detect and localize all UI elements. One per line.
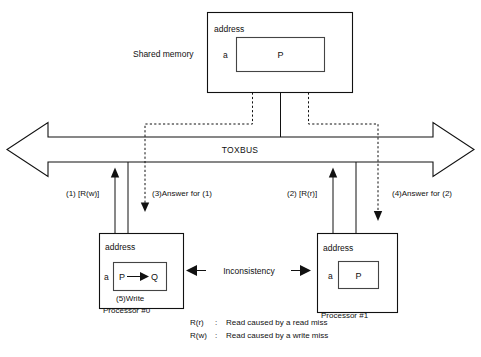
- shared-memory-side-label: Shared memory: [133, 49, 194, 59]
- processor1-block-value: P: [355, 271, 361, 281]
- request2-arrowhead: [329, 168, 337, 178]
- toxbus-group: TOXBUS: [7, 123, 474, 177]
- processor1-group: address a P Processor #1: [318, 234, 398, 321]
- processor0-name-label: Processor #0: [103, 306, 151, 315]
- processor0-tag-label: a: [104, 272, 109, 282]
- inconsistency-label: Inconsistency: [223, 266, 275, 276]
- processor0-write-label: (5)Write: [116, 294, 145, 303]
- processor1-tag-label: a: [328, 271, 333, 281]
- inconsistency-right-arrow-icon: [291, 265, 311, 276]
- legend-group: R(r) : Read caused by a read miss R(w) :…: [190, 318, 328, 340]
- legend-term-1: R(w): [190, 331, 207, 340]
- shared-memory-tag-label: a: [223, 50, 228, 60]
- request1-arrowhead: [111, 168, 119, 178]
- cache-coherence-diagram: address a P Shared memory TOXBUS (1): [0, 0, 481, 357]
- shared-memory-block-value: P: [277, 50, 283, 60]
- shared-memory-address-label: address: [214, 24, 244, 34]
- answer1-arrowhead: [141, 203, 149, 213]
- legend-definition-1: Read caused by a write miss: [226, 331, 328, 340]
- answer2-arrowhead: [374, 211, 382, 221]
- processor1-address-label: address: [323, 243, 353, 253]
- processor0-block-from: P: [119, 272, 125, 282]
- legend-separator-0: :: [215, 318, 217, 327]
- processor0-group: address a P Q (5)Write Processor #0: [100, 234, 184, 316]
- legend-term-0: R(r): [190, 318, 204, 327]
- transaction-1-label: (1) [R(w)]: [66, 189, 99, 198]
- diagram-canvas: address a P Shared memory TOXBUS (1): [0, 0, 481, 357]
- inconsistency-left-arrow-icon: [186, 265, 206, 276]
- transaction-4-label: (4)Answer for (2): [392, 189, 452, 198]
- processor0-bus-lines: [111, 162, 128, 233]
- legend-separator-1: :: [215, 331, 217, 340]
- memory-answer2-dashed-path: [309, 93, 379, 213]
- inconsistency-group: Inconsistency: [186, 265, 311, 276]
- toxbus-label: TOXBUS: [222, 145, 259, 155]
- processor0-block-to: Q: [151, 272, 158, 282]
- write-transition-arrow-icon: [127, 272, 149, 281]
- shared-memory-group: address a P Shared memory: [133, 13, 353, 93]
- processor1-name-label: Processor #1: [321, 311, 369, 320]
- transaction-3-label: (3)Answer for (1): [152, 189, 212, 198]
- legend-definition-0: Read caused by a read miss: [226, 318, 327, 327]
- processor0-address-label: address: [105, 242, 135, 252]
- transaction-2-label: (2) [R(r)]: [287, 189, 317, 198]
- processor1-bus-lines: [329, 162, 356, 233]
